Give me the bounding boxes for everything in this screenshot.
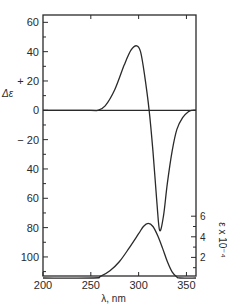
y-tick-label: 40 bbox=[27, 163, 39, 175]
y-tick-label: + 20 bbox=[17, 75, 39, 87]
y-tick-label: 100 bbox=[21, 251, 39, 263]
cd-curve bbox=[43, 46, 196, 231]
y-tick-label: 0 bbox=[33, 104, 39, 116]
y-tick-label: 60 bbox=[27, 192, 39, 204]
y-tick-label: 60 bbox=[27, 16, 39, 28]
y-axis-label: Δε bbox=[1, 88, 14, 99]
x-tick-label: 250 bbox=[82, 279, 100, 291]
axis-labels: 2002503003506040+ 200− 20406080100642λ, … bbox=[1, 16, 227, 304]
y2-tick-label: 6 bbox=[200, 211, 206, 222]
y-tick-label: − 20 bbox=[17, 134, 39, 146]
cd-absorption-chart: 2002503003506040+ 200− 20406080100642λ, … bbox=[0, 0, 227, 306]
x-tick-label: 300 bbox=[129, 279, 147, 291]
y2-axis-label: ε x 10⁻⁴ bbox=[217, 222, 227, 257]
y2-tick-label: 2 bbox=[200, 252, 206, 263]
x-tick-label: 350 bbox=[177, 279, 195, 291]
x-tick-label: 200 bbox=[34, 279, 52, 291]
y-tick-label: 80 bbox=[27, 222, 39, 234]
plot-area bbox=[43, 46, 196, 278]
x-axis-label: λ, nm bbox=[101, 293, 125, 304]
absorption-curve bbox=[43, 223, 196, 278]
y2-tick-label: 4 bbox=[200, 232, 206, 243]
y-tick-label: 40 bbox=[27, 46, 39, 58]
